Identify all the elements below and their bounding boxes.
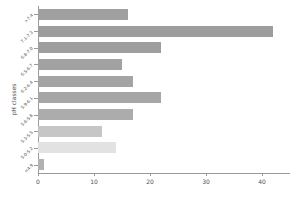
bar-chart: >7.47.1-7.36.8-7.06.5-6.76.2-6.45.9-6.15… <box>0 0 296 200</box>
bar-row <box>38 126 290 137</box>
bar <box>38 109 133 120</box>
bar <box>38 42 161 53</box>
y-axis-tick <box>34 64 38 65</box>
bar <box>38 26 273 37</box>
bar-row <box>38 59 290 70</box>
y-axis-tick <box>34 115 38 116</box>
bar <box>38 159 44 170</box>
y-axis-tick <box>34 14 38 15</box>
y-axis-tick-label: 7.1-7.3 <box>19 29 33 43</box>
bar-row <box>38 142 290 153</box>
y-axis-tick-label: 5.9-6.1 <box>19 96 33 110</box>
y-axis-tick-label: 6.5-6.7 <box>19 63 33 77</box>
x-axis-tick <box>94 173 95 176</box>
y-axis-tick-label: 5.3-5.5 <box>19 129 33 143</box>
y-axis-tick-label: >7.4 <box>23 13 34 24</box>
x-axis-tick-label: 10 <box>79 178 109 186</box>
x-axis-tick <box>150 173 151 176</box>
x-axis-tick <box>38 173 39 176</box>
bar <box>38 9 128 20</box>
y-axis-tick <box>34 131 38 132</box>
x-axis-line <box>38 173 290 174</box>
bar <box>38 142 116 153</box>
bar-row <box>38 92 290 103</box>
x-axis-tick <box>206 173 207 176</box>
y-axis-tick <box>34 165 38 166</box>
y-axis-tick <box>34 31 38 32</box>
bar-row <box>38 109 290 120</box>
bar-row <box>38 26 290 37</box>
x-axis-tick-label: 20 <box>135 178 165 186</box>
y-axis-tick <box>34 48 38 49</box>
x-axis-tick <box>262 173 263 176</box>
y-axis-tick <box>34 81 38 82</box>
bar-row <box>38 76 290 87</box>
bar <box>38 76 133 87</box>
x-axis-tick-label: 30 <box>191 178 221 186</box>
bar-row <box>38 42 290 53</box>
x-axis-tick-label: 40 <box>247 178 277 186</box>
bar <box>38 59 122 70</box>
bar-row <box>38 159 290 170</box>
y-axis-tick-label: 5.6-5.8 <box>19 113 33 127</box>
y-axis-tick-label: 6.8-7.0 <box>19 46 33 60</box>
bar <box>38 126 102 137</box>
bar <box>38 92 161 103</box>
y-axis-tick <box>34 98 38 99</box>
x-axis-tick-label: 0 <box>23 178 53 186</box>
y-axis-tick-label: <4.9 <box>23 163 34 174</box>
y-axis-tick-label: 6.2-6.4 <box>19 79 33 93</box>
y-axis-title: pH classes <box>9 65 18 135</box>
bar-row <box>38 9 290 20</box>
y-axis-tick <box>34 148 38 149</box>
plot-area <box>38 6 290 172</box>
y-axis-tick-label: 5.0-5.2 <box>19 146 33 160</box>
